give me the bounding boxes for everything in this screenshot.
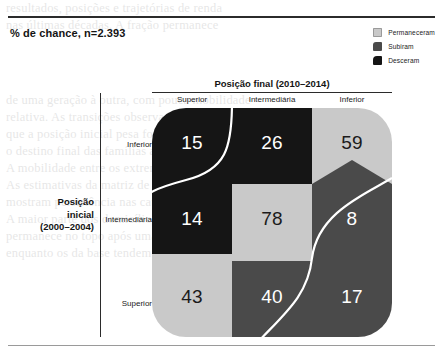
cell-intermediaria-inferior[interactable] [312, 184, 392, 261]
y-axis-title: Posição inicial (2000–2004) [8, 196, 94, 234]
cell-inferior-superior[interactable] [152, 108, 232, 184]
y-axis-title-line2: inicial [8, 209, 94, 222]
transition-matrix-chart: Posição final (2010–2014) Superior Inter… [0, 0, 443, 359]
x-axis-title: Posição final (2010–2014) [152, 78, 392, 89]
column-header-inferior: Inferior [312, 95, 392, 104]
cell-superior-inferior[interactable] [312, 261, 392, 337]
matrix-cells [152, 108, 392, 337]
y-axis-title-line1: Posição [8, 196, 94, 209]
y-axis-rule [100, 93, 101, 337]
column-header-intermediaria: Intermediária [232, 95, 312, 104]
matrix-svg [152, 108, 392, 337]
row-header-superior: Superior [104, 299, 152, 308]
row-header-intermediaria: Intermediária [104, 215, 152, 224]
column-header-superior: Superior [152, 95, 232, 104]
matrix-body: 15 26 59 14 78 8 43 40 17 [152, 108, 392, 337]
y-axis-title-line3: (2000–2004) [8, 221, 94, 234]
row-header-inferior: Inferior [104, 140, 152, 149]
cell-superior-intermediaria[interactable] [232, 261, 312, 337]
cell-intermediaria-superior[interactable] [152, 184, 232, 261]
cell-intermediaria-intermediaria[interactable] [232, 184, 312, 261]
cell-inferior-intermediaria[interactable] [232, 108, 312, 184]
x-axis-rule [152, 92, 392, 93]
